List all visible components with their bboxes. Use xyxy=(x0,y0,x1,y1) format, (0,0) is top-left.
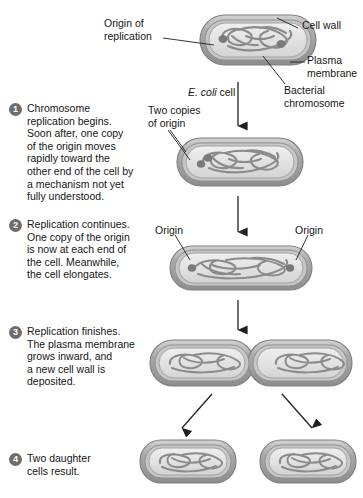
stage-parent-cell xyxy=(198,12,318,68)
callout-origin-left: Origin xyxy=(155,224,183,237)
step-1-number: 1 xyxy=(9,103,22,116)
stage-4-daughter-cell-right xyxy=(258,437,358,487)
organism-name-rest: cell xyxy=(217,86,236,98)
step-1-text: Chromosome replication begins. Soon afte… xyxy=(27,102,133,203)
stage-3-dividing-cell xyxy=(148,336,354,390)
stage-1-cell xyxy=(175,135,305,190)
stage-2-cell xyxy=(168,243,314,295)
step-3-number: 3 xyxy=(9,326,22,339)
stage-4-daughter-cell-left xyxy=(138,437,238,487)
step-4-text: Two daughter cells result. xyxy=(27,452,91,477)
step-4-number: 4 xyxy=(9,453,22,466)
callout-plasma-membrane: Plasma membrane xyxy=(307,54,357,79)
step-2-number: 2 xyxy=(9,219,22,232)
organism-name-italic: E. coli xyxy=(188,86,217,98)
callout-origin-of-replication: Origin of replication xyxy=(104,17,152,42)
callout-two-copies-of-origin: Two copies of origin xyxy=(148,104,201,129)
step-2-text: Replication continues. One copy of the o… xyxy=(27,218,130,281)
callout-origin-right: Origin xyxy=(295,224,323,237)
step-2: 2 Replication continues. One copy of the… xyxy=(9,218,149,281)
organism-caption: E. coli cell xyxy=(188,73,235,98)
step-4: 4 Two daughter cells result. xyxy=(9,452,149,477)
callout-cell-wall: Cell wall xyxy=(302,19,341,32)
step-3: 3 Replication finishes. The plasma membr… xyxy=(9,325,149,388)
step-3-text: Replication finishes. The plasma membran… xyxy=(27,325,135,388)
callout-bacterial-chromosome: Bacterial chromosome xyxy=(284,84,345,109)
step-1: 1 Chromosome replication begins. Soon af… xyxy=(9,102,149,203)
